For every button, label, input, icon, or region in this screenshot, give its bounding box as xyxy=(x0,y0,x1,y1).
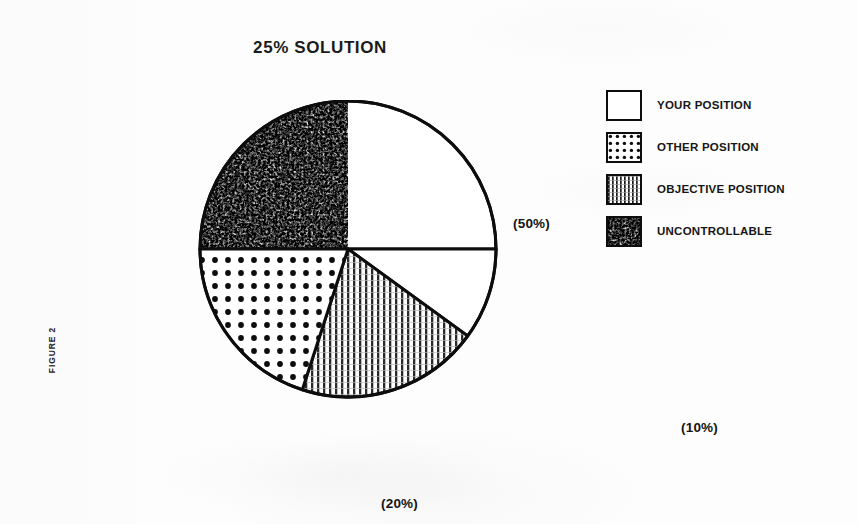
pie-chart: (50%) (10%) (20%) (20%) xyxy=(185,100,525,480)
legend-label-other-position: OTHER POSITION xyxy=(657,141,759,153)
legend-item-your-position[interactable]: YOUR POSITION xyxy=(606,84,846,126)
figure-page: 25% SOLUTION FIGURE 2 xyxy=(0,0,858,524)
pie-slice-uncontrollable[interactable] xyxy=(200,100,496,250)
legend-swatch-vertical-lines-icon xyxy=(606,174,642,205)
legend-item-other-position[interactable]: OTHER POSITION xyxy=(606,126,846,168)
legend-item-objective-position[interactable]: OBJECTIVE POSITION xyxy=(606,168,846,210)
figure-caption: FIGURE 2 xyxy=(47,290,57,410)
pie-label-other-position: (20%) xyxy=(381,496,418,511)
page-title: 25% SOLUTION xyxy=(0,38,640,58)
pie-label-your-position: (10%) xyxy=(681,420,718,435)
legend-swatch-blank-icon xyxy=(606,90,642,121)
legend-swatch-speckle-icon xyxy=(606,216,642,247)
legend-swatch-dots-icon xyxy=(606,132,642,163)
pie-label-uncontrollable: (50%) xyxy=(513,216,550,231)
legend: YOUR POSITION OTHER POSITION OBJECTIVE P… xyxy=(606,84,846,252)
legend-label-uncontrollable: UNCONTROLLABLE xyxy=(657,225,772,237)
legend-label-your-position: YOUR POSITION xyxy=(657,99,752,111)
legend-label-objective-position: OBJECTIVE POSITION xyxy=(657,183,785,195)
pie-chart-svg xyxy=(185,100,525,480)
legend-item-uncontrollable[interactable]: UNCONTROLLABLE xyxy=(606,210,846,252)
